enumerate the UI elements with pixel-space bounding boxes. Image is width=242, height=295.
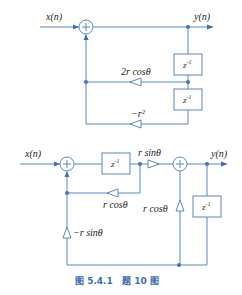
- bottom-gain-neg-label: −r sinθ: [73, 227, 103, 238]
- figure-caption: 图 5.4.1 题 10 图: [75, 276, 159, 286]
- bottom-gain-forward-label: r sinθ: [138, 147, 161, 158]
- bottom-output-label: y(n): [210, 148, 228, 160]
- bottom-gain-cross-triangle: [176, 200, 184, 211]
- bottom-diagram: x(n) z-1 r sinθ y(n) r cosθ −r si: [20, 147, 228, 267]
- top-input-label: x(n): [45, 11, 63, 23]
- bottom-output-arrow-icon: [221, 162, 228, 167]
- bottom-gain-feedback-triangle: [107, 189, 118, 197]
- bottom-adder-1-in-arrow-icon: [65, 171, 70, 177]
- block-diagram-canvas: x(n) y(n) z-1 z-1 2r cosθ −r²: [0, 0, 242, 295]
- bottom-gain-neg-triangle: [63, 227, 71, 238]
- top-adder-in-arrow-icon: [84, 34, 89, 40]
- top-output-label: y(n): [193, 11, 211, 23]
- top-gain-1-triangle: [130, 78, 141, 86]
- top-gain-2-label: −r²: [131, 108, 146, 119]
- top-gain-1-label: 2r cosθ: [121, 66, 151, 77]
- bottom-input-arrow-icon: [54, 162, 60, 167]
- top-output-arrow-icon: [207, 25, 214, 30]
- top-gain-2-triangle: [130, 120, 141, 128]
- top-diagram: x(n) y(n) z-1 z-1 2r cosθ −r²: [40, 11, 214, 128]
- bottom-gain-cross-label: r cosθ: [143, 203, 168, 214]
- top-input-arrow-icon: [73, 25, 79, 30]
- bottom-gain-feedback-label: r cosθ: [103, 199, 128, 210]
- bottom-gain-forward-triangle: [148, 160, 159, 168]
- bottom-input-label: x(n): [24, 148, 42, 160]
